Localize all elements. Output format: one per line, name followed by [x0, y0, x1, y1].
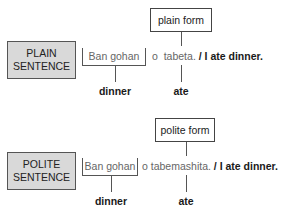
plain-sentence-label: PLAIN SENTENCE [7, 41, 76, 79]
bracket-noun: Ban gohan [82, 158, 138, 176]
connector-line [115, 66, 116, 82]
separator: / [214, 160, 217, 172]
connector-line [186, 175, 187, 192]
label-line: SENTENCE [13, 171, 70, 184]
verb: tabemashita. [151, 160, 211, 172]
plain-form-box: plain form [150, 8, 212, 32]
connector-line [181, 32, 182, 46]
bracketed-text: Ban gohan [85, 160, 136, 172]
connector-line [186, 142, 187, 156]
label-line: POLITE [23, 158, 60, 171]
translation: I ate dinner. [220, 160, 278, 172]
polite-form-box: polite form [155, 118, 215, 142]
gloss-noun: dinner [95, 195, 127, 207]
gloss-verb: ate [173, 85, 188, 97]
bracket-noun: Ban gohan [82, 48, 146, 66]
particle: o [142, 160, 148, 172]
sentence-rest: o tabeta. / I ate dinner. [152, 50, 263, 62]
connector-line [111, 176, 112, 192]
label-line: SENTENCE [13, 60, 70, 73]
sentence-rest: o tabemashita. / I ate dinner. [142, 160, 278, 172]
verb: tabeta. [164, 50, 196, 62]
translation: I ate dinner. [205, 50, 263, 62]
connector-line [181, 65, 182, 82]
gloss-noun: dinner [99, 85, 131, 97]
polite-sentence-label: POLITE SENTENCE [7, 152, 76, 190]
label-line: PLAIN [26, 47, 56, 60]
bracketed-text: Ban gohan [89, 50, 140, 62]
particle: o [152, 50, 158, 62]
gloss-verb: ate [178, 195, 193, 207]
separator: / [199, 50, 202, 62]
